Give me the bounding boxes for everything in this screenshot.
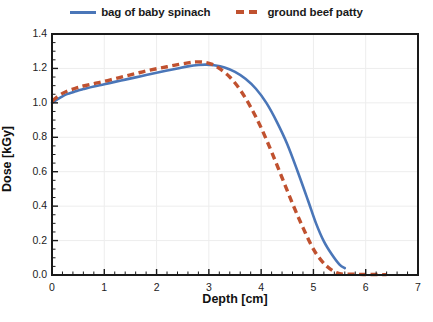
legend-item-spinach: bag of baby spinach (70, 6, 210, 18)
chart-figure: bag of baby spinach ground beef patty Do… (0, 0, 433, 322)
legend-label-beef: ground beef patty (267, 6, 362, 18)
x-tick-label: 6 (356, 281, 376, 293)
y-tick-label: 1.4 (19, 27, 47, 39)
chart-plot-area (0, 0, 433, 322)
x-tick-label: 2 (147, 281, 167, 293)
x-axis-title: Depth [cm] (52, 292, 418, 306)
x-tick-label: 0 (42, 281, 62, 293)
legend-label-spinach: bag of baby spinach (101, 6, 210, 18)
legend-swatch-solid-line-icon (70, 11, 96, 14)
y-tick-label: 1.2 (19, 61, 47, 73)
legend-item-beef: ground beef patty (236, 6, 362, 18)
y-tick-label: 0.0 (19, 268, 47, 280)
x-tick-label: 3 (199, 281, 219, 293)
x-tick-label: 7 (408, 281, 428, 293)
y-tick-label: 0.8 (19, 130, 47, 142)
x-tick-label: 1 (94, 281, 114, 293)
x-tick-label: 4 (251, 281, 271, 293)
y-tick-label: 0.2 (19, 234, 47, 246)
legend-swatch-dashed-line-icon (236, 10, 262, 14)
chart-legend: bag of baby spinach ground beef patty (0, 2, 433, 22)
y-tick-label: 1.0 (19, 96, 47, 108)
y-axis-title: Dose [kGy] (0, 104, 14, 214)
y-tick-label: 0.6 (19, 165, 47, 177)
y-tick-label: 0.4 (19, 199, 47, 211)
x-tick-label: 5 (303, 281, 323, 293)
